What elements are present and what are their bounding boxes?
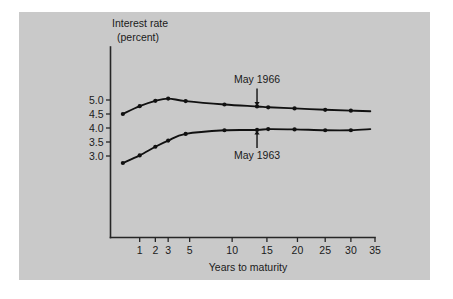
chart-plot: 1235101520253035 3.03.54.04.55.0 May 196…	[0, 0, 453, 299]
data-point-marker	[166, 97, 170, 101]
y-axis-label-line1: Interest rate	[112, 17, 168, 29]
x-tick-label: 35	[369, 244, 381, 256]
data-point-marker	[266, 127, 270, 131]
x-tick-label: 20	[292, 244, 304, 256]
x-tick-label: 10	[226, 244, 238, 256]
annotations: May 1966May 1963	[234, 73, 280, 161]
annotation-arrow-head	[254, 130, 259, 134]
data-point-marker	[184, 99, 188, 103]
data-point-marker	[349, 109, 353, 113]
data-point-marker	[349, 128, 353, 132]
data-point-marker	[121, 112, 125, 116]
x-tick-label: 15	[261, 244, 273, 256]
data-point-marker	[138, 104, 142, 108]
y-tick-label: 5.0	[89, 94, 104, 106]
y-tick-label: 3.0	[89, 150, 104, 162]
data-point-marker	[292, 106, 296, 110]
data-point-marker	[153, 145, 157, 149]
annotation-label: May 1966	[234, 73, 280, 85]
annotation-arrow-head	[254, 102, 259, 106]
data-point-marker	[222, 102, 226, 106]
y-axis-label-line2: (percent)	[117, 31, 159, 43]
x-tick-label: 1	[137, 244, 143, 256]
figure-canvas: 1235101520253035 3.03.54.04.55.0 May 196…	[0, 0, 453, 299]
y-axis-ticks: 3.03.54.04.55.0	[89, 94, 111, 162]
y-tick-label: 4.5	[89, 108, 104, 120]
data-point-marker	[138, 153, 142, 157]
data-point-marker	[292, 127, 296, 131]
y-tick-label: 3.5	[89, 136, 104, 148]
x-tick-label: 25	[319, 244, 331, 256]
x-axis-label: Years to maturity	[209, 261, 288, 273]
y-tick-label: 4.0	[89, 122, 104, 134]
data-point-marker	[166, 139, 170, 143]
data-point-marker	[153, 99, 157, 103]
data-point-marker	[121, 161, 125, 165]
x-tick-label: 2	[152, 244, 158, 256]
data-point-marker	[266, 105, 270, 109]
data-point-marker	[323, 108, 327, 112]
x-tick-label: 30	[345, 244, 357, 256]
x-tick-label: 3	[165, 244, 171, 256]
x-tick-label: 5	[187, 244, 193, 256]
x-axis-ticks: 1235101520253035	[137, 238, 381, 256]
series-line	[123, 99, 370, 114]
data-point-marker	[323, 128, 327, 132]
data-point-marker	[222, 128, 226, 132]
data-point-marker	[184, 132, 188, 136]
annotation-label: May 1963	[234, 149, 280, 161]
